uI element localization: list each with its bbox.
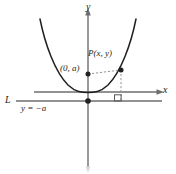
directrix-equation-label: y = −a — [21, 104, 46, 113]
figure-canvas — [0, 0, 176, 174]
line-l-label: L — [5, 95, 11, 105]
y-axis-bottom-arrowhead — [86, 167, 91, 174]
right-angle-marker — [115, 95, 122, 101]
parabola-point-dot — [119, 68, 124, 73]
point-p-label: P(x, y) — [88, 49, 112, 58]
x-axis-label: x — [163, 85, 167, 95]
focus-label: (0, a) — [60, 64, 80, 73]
focus-point-dot — [86, 72, 91, 77]
parabola-figure: y x P(x, y) (0, a) L y = −a — [0, 0, 176, 174]
y-axis-label: y — [86, 2, 90, 12]
vertex-origin-dot — [85, 98, 91, 104]
